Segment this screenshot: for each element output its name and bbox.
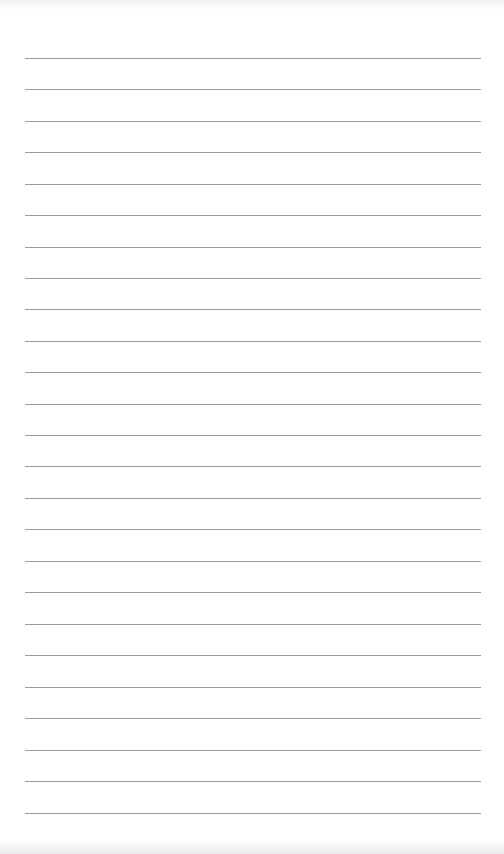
ruled-line bbox=[25, 404, 481, 405]
ruled-line bbox=[25, 121, 481, 122]
ruled-line bbox=[25, 466, 481, 467]
ruled-line bbox=[25, 561, 481, 562]
ruled-line bbox=[25, 184, 481, 185]
ruled-line bbox=[25, 247, 481, 248]
ruled-line bbox=[25, 152, 481, 153]
ruled-line bbox=[25, 529, 481, 530]
ruled-line bbox=[25, 687, 481, 688]
ruled-line bbox=[25, 58, 481, 59]
ruled-line bbox=[25, 718, 481, 719]
ruled-line bbox=[25, 813, 481, 814]
ruled-line bbox=[25, 89, 481, 90]
ruled-line bbox=[25, 435, 481, 436]
ruled-line bbox=[25, 215, 481, 216]
paper-top-edge bbox=[0, 0, 504, 10]
paper-bottom-edge bbox=[0, 840, 504, 854]
ruled-line bbox=[25, 498, 481, 499]
ruled-line bbox=[25, 592, 481, 593]
ruled-line bbox=[25, 781, 481, 782]
ruled-line bbox=[25, 278, 481, 279]
ruled-line bbox=[25, 372, 481, 373]
ruled-line bbox=[25, 624, 481, 625]
ruled-line bbox=[25, 750, 481, 751]
ruled-line bbox=[25, 309, 481, 310]
ruled-line bbox=[25, 341, 481, 342]
lined-paper-page bbox=[0, 0, 504, 854]
ruled-line bbox=[25, 655, 481, 656]
